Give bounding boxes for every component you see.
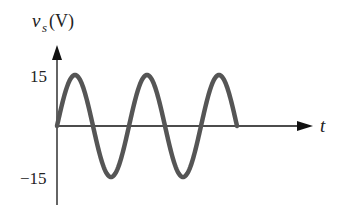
- y-axis-label-sub: s: [42, 20, 47, 35]
- t-axis-arrow-icon: [297, 121, 313, 131]
- y-axis-label-v: v: [32, 10, 41, 31]
- x-axis-label: t: [320, 115, 326, 136]
- y-axis-arrow-icon: [52, 45, 62, 60]
- sine-waveform-chart: v s (V) 15 −15 t: [0, 0, 340, 216]
- ytick-neg15: −15: [20, 169, 47, 188]
- y-axis-label-unit: (V): [49, 11, 74, 32]
- chart-canvas: v s (V) 15 −15 t: [0, 0, 340, 216]
- ytick-15: 15: [30, 67, 47, 86]
